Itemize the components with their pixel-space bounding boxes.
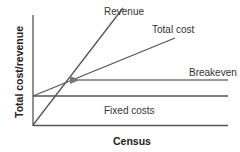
total-cost-line <box>33 38 175 96</box>
breakeven-chart: Revenue Total cost Breakeven Fixed costs… <box>0 0 240 152</box>
total-cost-label: Total cost <box>152 24 194 35</box>
revenue-label: Revenue <box>104 6 144 17</box>
y-axis-label: Total cost/revenue <box>13 26 25 118</box>
fixed-costs-label: Fixed costs <box>104 105 155 116</box>
breakeven-label: Breakeven <box>189 67 237 78</box>
x-axis-label: Census <box>113 135 151 147</box>
